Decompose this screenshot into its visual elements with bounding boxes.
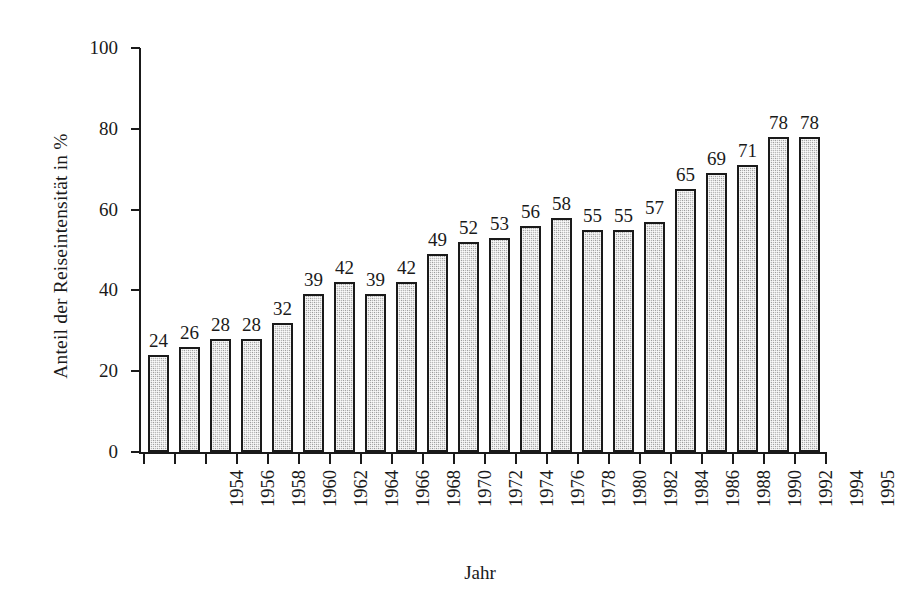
y-tick-label-text: 20 bbox=[72, 361, 118, 380]
bar-value-label: 28 bbox=[230, 315, 273, 334]
bar bbox=[365, 294, 386, 452]
x-category-label: 1992 bbox=[816, 470, 836, 548]
x-category-label: 1974 bbox=[537, 470, 557, 548]
bar bbox=[396, 282, 417, 452]
x-axis-title-text: Jahr bbox=[464, 562, 496, 583]
bar bbox=[737, 165, 758, 452]
x-tick bbox=[608, 454, 610, 464]
bar bbox=[148, 355, 169, 452]
bar bbox=[210, 339, 231, 452]
bar bbox=[458, 242, 479, 452]
x-tick bbox=[763, 454, 765, 464]
x-category-label: 1964 bbox=[382, 470, 402, 548]
y-tick-label-text: 60 bbox=[72, 200, 118, 219]
bar bbox=[644, 222, 665, 452]
x-tick bbox=[670, 454, 672, 464]
y-tick bbox=[131, 47, 140, 49]
x-category-label: 1990 bbox=[785, 470, 805, 548]
bar bbox=[582, 230, 603, 452]
x-tick bbox=[794, 454, 796, 464]
x-category-label: 1988 bbox=[754, 470, 774, 548]
x-tick bbox=[174, 454, 176, 464]
x-tick bbox=[298, 454, 300, 464]
bar bbox=[179, 347, 200, 452]
x-category-label: 1978 bbox=[599, 470, 619, 548]
bar-value-label: 65 bbox=[664, 165, 707, 184]
bar-value-label: 42 bbox=[385, 258, 428, 277]
x-category-label: 1994 bbox=[847, 470, 867, 548]
x-tick bbox=[484, 454, 486, 464]
x-tick bbox=[701, 454, 703, 464]
y-tick-label-text: 80 bbox=[72, 119, 118, 138]
x-tick bbox=[391, 454, 393, 464]
x-category-label: 1960 bbox=[320, 470, 340, 548]
x-tick bbox=[732, 454, 734, 464]
bar bbox=[303, 294, 324, 452]
x-tick bbox=[515, 454, 517, 464]
x-tick bbox=[143, 454, 145, 464]
x-tick bbox=[825, 454, 827, 464]
bar bbox=[334, 282, 355, 452]
y-tick-label: 80 bbox=[72, 119, 118, 138]
y-tick bbox=[131, 289, 140, 291]
y-tick bbox=[131, 370, 140, 372]
bar bbox=[551, 218, 572, 452]
x-category-label: 1980 bbox=[630, 470, 650, 548]
bar-value-label: 71 bbox=[726, 141, 769, 160]
y-axis-title: Anteil der Reiseintensität in % bbox=[48, 56, 74, 456]
x-tick bbox=[546, 454, 548, 464]
x-category-label: 1995 bbox=[878, 470, 898, 548]
x-tick bbox=[360, 454, 362, 464]
x-category-label: 1970 bbox=[475, 470, 495, 548]
bar-value-label: 78 bbox=[788, 113, 831, 132]
x-category-label: 1986 bbox=[723, 470, 743, 548]
y-tick-label: 60 bbox=[72, 200, 118, 219]
x-axis-line bbox=[139, 452, 827, 454]
bar-value-label: 32 bbox=[261, 299, 304, 318]
x-category-label: 1972 bbox=[506, 470, 526, 548]
bar-value-label: 57 bbox=[633, 198, 676, 217]
y-tick-label-text: 0 bbox=[72, 442, 118, 461]
x-category-label: 1984 bbox=[692, 470, 712, 548]
bar bbox=[675, 189, 696, 452]
bar bbox=[520, 226, 541, 452]
x-category-label: 1954 bbox=[227, 470, 247, 548]
x-tick bbox=[329, 454, 331, 464]
bar bbox=[427, 254, 448, 452]
bar bbox=[241, 339, 262, 452]
x-tick bbox=[205, 454, 207, 464]
bar bbox=[799, 137, 820, 452]
x-tick bbox=[422, 454, 424, 464]
y-tick bbox=[131, 128, 140, 130]
y-tick-label-text: 100 bbox=[72, 38, 118, 57]
plot-area: 2426282832394239424952535658555557656971… bbox=[141, 48, 827, 452]
x-category-label: 1958 bbox=[289, 470, 309, 548]
y-tick-label: 20 bbox=[72, 361, 118, 380]
x-tick bbox=[236, 454, 238, 464]
bar bbox=[768, 137, 789, 452]
x-category-label: 1976 bbox=[568, 470, 588, 548]
x-category-label: 1968 bbox=[444, 470, 464, 548]
x-tick bbox=[453, 454, 455, 464]
x-tick bbox=[267, 454, 269, 464]
bar bbox=[613, 230, 634, 452]
y-tick-label-text: 40 bbox=[72, 280, 118, 299]
y-tick bbox=[131, 209, 140, 211]
x-tick bbox=[639, 454, 641, 464]
x-category-label: 1962 bbox=[351, 470, 371, 548]
y-tick-label: 0 bbox=[72, 442, 118, 461]
bar bbox=[706, 173, 727, 452]
bar bbox=[489, 238, 510, 452]
y-tick-label: 100 bbox=[72, 38, 118, 57]
x-tick bbox=[577, 454, 579, 464]
x-category-label: 1966 bbox=[413, 470, 433, 548]
y-tick bbox=[131, 451, 140, 453]
bar bbox=[272, 323, 293, 452]
y-tick-label: 40 bbox=[72, 280, 118, 299]
x-category-label: 1982 bbox=[661, 470, 681, 548]
x-axis-title: Jahr bbox=[0, 562, 860, 584]
x-category-label: 1956 bbox=[258, 470, 278, 548]
